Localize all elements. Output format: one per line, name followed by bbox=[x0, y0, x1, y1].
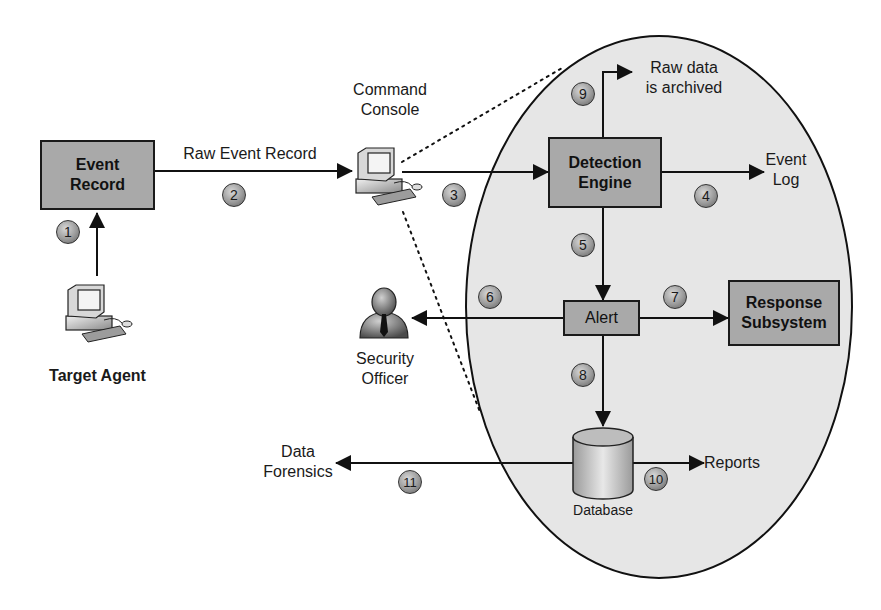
target-agent-computer-icon bbox=[66, 285, 132, 342]
database-icon bbox=[573, 428, 633, 499]
step-badge-6: 6 bbox=[478, 285, 502, 309]
event-log-label: Event Log bbox=[756, 150, 816, 190]
step-badge-1: 1 bbox=[56, 220, 80, 244]
detection-engine-label-1: Detection bbox=[569, 153, 642, 173]
detection-engine-box[interactable]: Detection Engine bbox=[548, 137, 662, 208]
reports-label: Reports bbox=[704, 453, 784, 473]
command-console-label-2: Console bbox=[340, 100, 440, 120]
command-console-label: Command Console bbox=[340, 80, 440, 120]
raw-data-archived-label-2: is archived bbox=[634, 78, 734, 98]
database-label: Database bbox=[558, 502, 648, 520]
event-record-label-1: Event bbox=[76, 155, 120, 175]
raw-event-record-edge-label: Raw Event Record bbox=[160, 144, 340, 164]
command-console-computer-icon bbox=[356, 148, 422, 205]
step-badge-11: 11 bbox=[398, 470, 422, 494]
data-forensics-label: Data Forensics bbox=[258, 442, 338, 482]
step-badge-2: 2 bbox=[222, 183, 246, 207]
step-badge-10: 10 bbox=[644, 467, 668, 491]
data-forensics-label-2: Forensics bbox=[258, 462, 338, 482]
target-agent-label: Target Agent bbox=[35, 366, 160, 386]
step-badge-5: 5 bbox=[571, 233, 595, 257]
response-subsystem-box[interactable]: Response Subsystem bbox=[728, 280, 840, 346]
raw-data-archived-label-1: Raw data bbox=[634, 58, 734, 78]
response-subsystem-label-2: Subsystem bbox=[741, 313, 826, 333]
data-forensics-label-1: Data bbox=[258, 442, 338, 462]
security-officer-person-icon bbox=[360, 288, 408, 338]
alert-label: Alert bbox=[585, 308, 618, 328]
step-badge-8: 8 bbox=[571, 363, 595, 387]
step-badge-4: 4 bbox=[694, 184, 718, 208]
response-subsystem-label-1: Response bbox=[746, 293, 822, 313]
command-console-label-1: Command bbox=[340, 80, 440, 100]
event-record-label-2: Record bbox=[70, 175, 125, 195]
step-badge-9: 9 bbox=[571, 82, 595, 106]
step-badge-7: 7 bbox=[663, 285, 687, 309]
step-badge-3: 3 bbox=[442, 183, 466, 207]
security-officer-label: Security Officer bbox=[340, 349, 430, 389]
event-record-box[interactable]: Event Record bbox=[40, 140, 155, 210]
raw-data-archived-label: Raw data is archived bbox=[634, 58, 734, 98]
detection-engine-label-2: Engine bbox=[578, 173, 631, 193]
security-officer-label-2: Officer bbox=[340, 369, 430, 389]
event-log-label-2: Log bbox=[756, 170, 816, 190]
event-log-label-1: Event bbox=[756, 150, 816, 170]
security-officer-label-1: Security bbox=[340, 349, 430, 369]
alert-box[interactable]: Alert bbox=[563, 300, 640, 336]
